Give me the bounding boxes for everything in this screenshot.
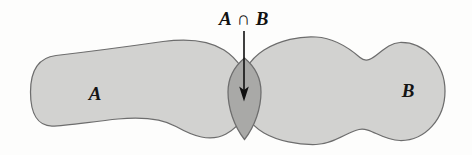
venn-diagram-canvas: A B A ∩ B	[0, 0, 472, 155]
set-b-label: B	[401, 80, 415, 101]
intersection-label: A ∩ B	[218, 8, 269, 29]
venn-diagram-figure: A B A ∩ B	[0, 0, 472, 155]
set-a-region	[31, 40, 250, 138]
set-a-label: A	[88, 83, 102, 104]
